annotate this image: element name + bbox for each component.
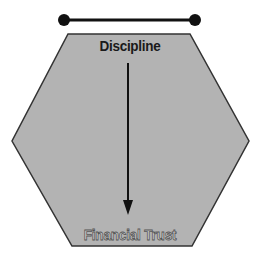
label-financial-trust: Financial Trust xyxy=(13,226,247,243)
connector-right-dot xyxy=(189,14,201,26)
connector-left-dot xyxy=(58,14,70,26)
label-discipline: Discipline xyxy=(13,37,247,54)
diagram-canvas: Discipline Financial Trust xyxy=(0,0,260,258)
hexagon-shape xyxy=(12,34,249,246)
